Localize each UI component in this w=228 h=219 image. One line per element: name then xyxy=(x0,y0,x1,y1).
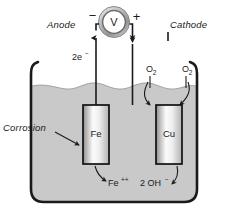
negative-terminal-sign: − xyxy=(89,8,97,23)
diagram-canvas: V − + Anode Cathode 2e − O 2 xyxy=(0,0,228,219)
anode-label: Anode xyxy=(46,19,75,30)
electrode-cu-label: Cu xyxy=(163,128,175,139)
hydroxide-label: 2 OH xyxy=(140,178,161,188)
oxygen-left-subscript: 2 xyxy=(153,69,157,76)
positive-terminal-sign: + xyxy=(133,9,141,24)
electrode-fe[interactable]: Fe xyxy=(83,105,109,164)
electrode-cu[interactable]: Cu xyxy=(156,105,182,164)
cathode-label: Cathode xyxy=(170,19,207,30)
iron-ion-label: Fe xyxy=(108,178,119,188)
wire-right-top xyxy=(130,24,133,30)
electron-label-group: 2e − xyxy=(72,50,89,63)
voltmeter[interactable]: V xyxy=(99,7,130,38)
electron-label: 2e xyxy=(72,52,82,62)
oxygen-left-group: O 2 xyxy=(146,64,157,76)
electrode-fe-label: Fe xyxy=(90,128,101,139)
oxygen-right-subscript: 2 xyxy=(189,69,193,76)
oxygen-right-group: O 2 xyxy=(182,64,193,76)
corrosion-label: Corrosion xyxy=(3,122,46,133)
voltmeter-symbol: V xyxy=(110,16,118,28)
corrosion-cell-diagram: V − + Anode Cathode 2e − O 2 xyxy=(0,0,228,219)
hydroxide-charge: − xyxy=(165,176,169,183)
iron-ion-charge: ++ xyxy=(121,176,129,183)
electron-charge: − xyxy=(85,50,89,57)
